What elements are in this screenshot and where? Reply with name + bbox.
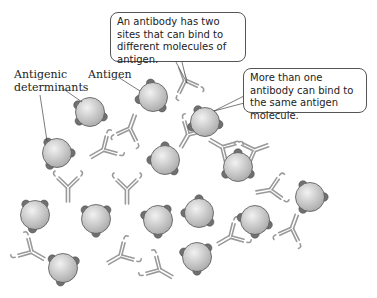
antigen [180, 243, 212, 276]
antibody [54, 171, 83, 202]
antibody-antigen-diagram: Antigenic determinants Antigen An antibo… [0, 0, 377, 298]
antigen [21, 200, 50, 233]
antibody [138, 249, 179, 290]
callout-two-sites: An antibody has two sites that can bind … [110, 12, 246, 62]
antigen [48, 254, 79, 286]
antigen [43, 138, 76, 169]
antigen [147, 142, 180, 175]
antibody [111, 110, 149, 149]
antibody [167, 62, 205, 101]
antigen [141, 205, 173, 238]
antigen [237, 206, 272, 239]
antibody [254, 173, 290, 207]
antibody [113, 173, 142, 204]
antigen [74, 98, 108, 127]
antigen [222, 149, 255, 182]
antigen [81, 205, 111, 238]
antibody [101, 235, 142, 276]
leader-determinant-2 [40, 95, 47, 141]
antibody [273, 210, 311, 249]
callout-multiple-antibodies: More than one antibody can bind to the s… [243, 68, 367, 113]
antigen-label: Antigen [88, 68, 132, 81]
antigen [135, 79, 167, 112]
antigenic-determinants-label: Antigenic determinants [14, 68, 88, 94]
callout-pointer-1 [176, 62, 187, 83]
antibody [10, 231, 51, 272]
antigen [181, 195, 214, 228]
antigen [296, 181, 329, 214]
